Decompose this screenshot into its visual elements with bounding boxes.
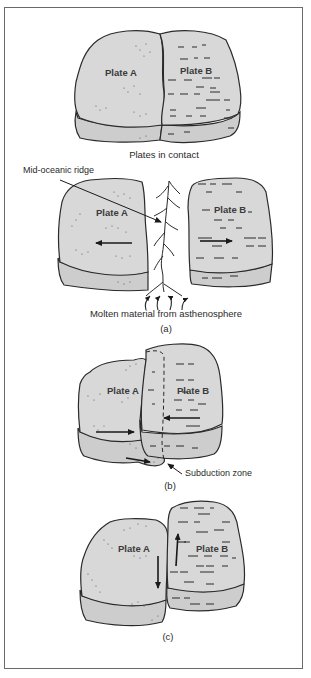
- caption-a: (a): [160, 324, 172, 334]
- plate-tectonics-diagram: [0, 0, 311, 678]
- plate-b-label: Plate B: [214, 205, 246, 215]
- plate-b-top: [188, 178, 273, 273]
- caption-plates-in-contact: Plates in contact: [129, 150, 199, 160]
- plate-b-label: Plate B: [196, 544, 228, 554]
- panel-a: [58, 178, 273, 291]
- molten-material-label: Molten material from asthenosphere: [90, 309, 242, 319]
- plate-a-top: [59, 179, 148, 276]
- plate-a-label: Plate A: [96, 208, 128, 218]
- subduction-zone-label: Subduction zone: [185, 469, 252, 478]
- plate-b-top: [160, 31, 241, 125]
- panel-contact: [75, 31, 241, 143]
- ridge-label: Mid-oceanic ridge: [23, 166, 94, 175]
- panel-b: [78, 344, 223, 474]
- subduction-leader-arrow: [168, 464, 182, 474]
- plate-a-label: Plate A: [118, 544, 150, 554]
- plate-a-label: Plate A: [107, 386, 139, 396]
- plate-b-label: Plate B: [177, 386, 209, 396]
- plate-a-label: Plate A: [105, 68, 137, 78]
- plate-a-top: [75, 31, 165, 128]
- panel-c: [80, 501, 245, 625]
- caption-b: (b): [164, 481, 176, 491]
- plate-b-label: Plate B: [180, 66, 212, 76]
- plate-a-top: [79, 359, 147, 442]
- plate-a-top: [81, 519, 168, 606]
- caption-c: (c): [162, 632, 173, 642]
